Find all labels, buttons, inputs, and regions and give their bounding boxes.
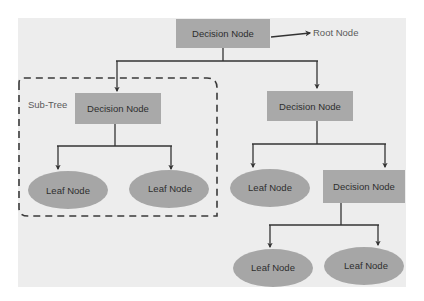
left-subtree-connectors: [57, 124, 172, 169]
node-label: Decision Node: [279, 101, 341, 112]
bottom-connectors: [269, 203, 379, 247]
bottom-leaf-node-1: Leaf Node: [233, 249, 313, 287]
right-subtree-connectors: [252, 121, 386, 167]
right-decision-node-2: Decision Node: [323, 170, 405, 203]
node-label: Decision Node: [333, 181, 395, 192]
node-label: Leaf Node: [251, 262, 295, 273]
decision-tree-diagram: Decision Node Root Node Sub-Tree Decisio…: [0, 0, 424, 301]
bottom-leaf-node-2: Leaf Node: [324, 247, 404, 285]
subtree-annotation: Sub-Tree: [28, 99, 67, 110]
root-node-annotation: Root Node: [313, 27, 358, 38]
node-label: Leaf Node: [248, 182, 292, 193]
root-pointer-arrow: [271, 33, 310, 37]
node-label: Leaf Node: [46, 185, 90, 196]
node-label: Leaf Node: [344, 260, 388, 271]
root-decision-node: Decision Node: [176, 19, 270, 48]
node-label: Leaf Node: [148, 183, 192, 194]
left-leaf-node-1: Leaf Node: [28, 171, 108, 209]
left-decision-node: Decision Node: [75, 93, 161, 124]
node-label: Decision Node: [192, 28, 254, 39]
node-label: Decision Node: [87, 103, 149, 114]
right-leaf-node-1: Leaf Node: [230, 169, 310, 207]
right-decision-node: Decision Node: [267, 91, 353, 121]
left-leaf-node-2: Leaf Node: [129, 170, 209, 208]
